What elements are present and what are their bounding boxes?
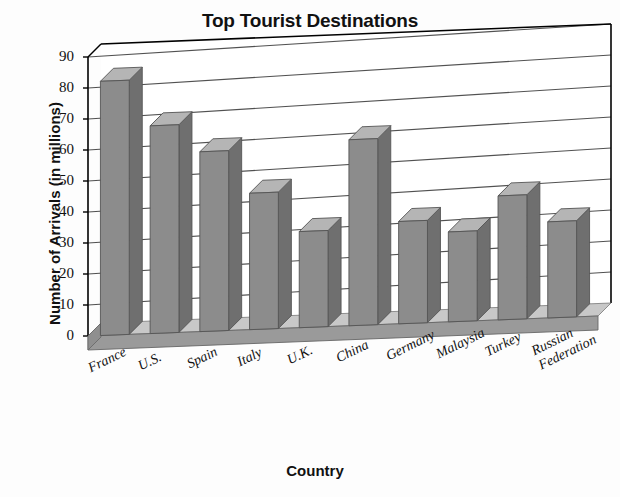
bar-2 (150, 112, 192, 334)
bar-4 (250, 179, 292, 330)
y-tick-label-10: 10 (40, 296, 74, 313)
bar-10 (548, 208, 590, 318)
bar-8 (448, 218, 490, 322)
y-tick-label-50: 50 (40, 172, 74, 189)
bar-5 (299, 217, 341, 327)
y-tick-label-0: 0 (40, 327, 74, 344)
bar-9 (498, 182, 540, 320)
y-tick-label-90: 90 (40, 48, 74, 65)
bar-3 (200, 138, 242, 332)
bar-chart-plot (0, 0, 620, 497)
chart-page: Top Tourist Destinations Number of Arriv… (0, 0, 620, 497)
y-tick-label-60: 60 (40, 141, 74, 158)
y-tick-label-30: 30 (40, 234, 74, 251)
y-tick-label-20: 20 (40, 265, 74, 282)
bar-1 (100, 67, 142, 335)
y-tick-label-70: 70 (40, 110, 74, 127)
bar-7 (399, 207, 441, 323)
y-tick-label-40: 40 (40, 203, 74, 220)
y-tick-label-80: 80 (40, 79, 74, 96)
bar-6 (349, 126, 391, 326)
